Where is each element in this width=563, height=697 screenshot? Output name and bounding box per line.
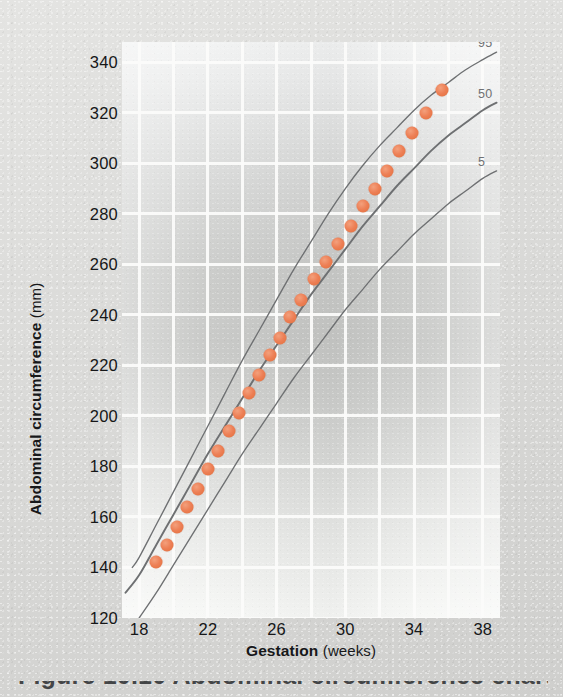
figure-caption-clip: Figure 10.10 Abdominal circumference cha… [18,681,548,697]
measurement-point [243,387,256,400]
measurement-point [294,293,307,306]
measurement-point [150,556,163,569]
figure-caption: Figure 10.10 Abdominal circumference cha… [18,681,548,690]
measurement-point [253,369,266,382]
y-axis-title: Abdominal circumference (mm) [27,283,45,515]
y-axis-tick-label: 180 [90,457,118,476]
x-axis-unit: (weeks) [323,642,376,659]
y-axis-tick-label: 200 [90,406,118,425]
x-axis-tick-label: 22 [199,620,218,639]
y-axis-tick-label: 280 [90,204,118,223]
measurement-point [344,220,357,233]
y-axis-title-text: Abdominal circumference [27,323,44,516]
measurement-point [232,407,245,420]
percentile-curve-50 [125,103,496,593]
measurement-point [320,255,333,268]
x-axis-tick-label: 38 [473,620,492,639]
y-axis-tick-label: 260 [90,255,118,274]
figure-page: Abdominal circumference (mm) 12014016018… [0,0,563,697]
measurement-point [284,311,297,324]
y-axis-tick-label: 120 [90,609,118,628]
measurement-point [380,164,393,177]
measurement-point [263,349,276,362]
y-axis-tick-label: 320 [90,103,118,122]
x-axis-tick-label: 26 [267,620,286,639]
x-axis-tick-label: 18 [130,620,149,639]
y-axis-tick-label: 160 [90,507,118,526]
y-axis-unit: (mm) [27,283,44,318]
growth-chart-figure: Abdominal circumference (mm) 12014016018… [28,34,535,658]
measurement-point [332,238,345,251]
percentile-label-95: 95 [478,42,493,50]
y-axis-tick-label: 300 [90,154,118,173]
measurement-point [201,462,214,475]
percentile-label-50: 50 [478,87,493,101]
measurement-point [368,182,381,195]
x-axis-tick-label: 30 [336,620,355,639]
measurement-point [222,425,235,438]
measurement-point [420,106,433,119]
percentile-curve-5 [139,171,496,618]
measurement-point [435,84,448,97]
y-axis-tick-label: 240 [90,305,118,324]
measurement-point [308,273,321,286]
y-axis-tick-label: 220 [90,356,118,375]
measurement-point [170,521,183,534]
x-axis-title: Gestation (weeks) [122,642,500,660]
measurement-point [274,331,287,344]
y-axis-tick-label: 140 [90,558,118,577]
x-axis-title-text: Gestation [246,642,318,659]
y-axis-tick-label: 340 [90,53,118,72]
measurement-point [160,538,173,551]
x-axis-tick-label: 34 [405,620,424,639]
percentile-label-5: 5 [478,155,485,169]
measurement-point [181,500,194,513]
measurement-point [191,483,204,496]
measurement-point [356,200,369,213]
y-axis-title-container: Abdominal circumference (mm) [22,184,50,614]
measurement-point [406,126,419,139]
y-axis-tick-labels: 120140160180200220240260280300320340 [50,34,122,634]
plot-area: 95505 [122,42,500,618]
measurement-point [212,445,225,458]
measurement-point [392,144,405,157]
